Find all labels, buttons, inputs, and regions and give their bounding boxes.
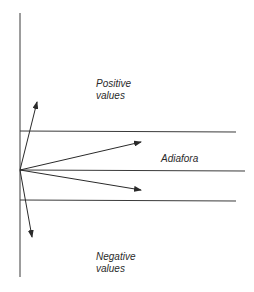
negative-values-label: Negative values [96, 251, 135, 275]
upper-boundary-line [20, 131, 236, 132]
negative-label-line2: values [96, 263, 135, 275]
arrow-positive [20, 102, 37, 170]
diagram-canvas [0, 0, 254, 292]
arrow-adiafora-down [20, 170, 141, 190]
positive-label-line2: values [96, 90, 131, 102]
positive-label-line1: Positive [96, 78, 131, 90]
lower-boundary-line [20, 200, 236, 201]
adiafora-label: Adiafora [161, 153, 198, 165]
arrow-adiafora-up [20, 142, 141, 170]
center-line [20, 170, 245, 171]
arrow-negative [20, 170, 32, 237]
negative-label-line1: Negative [96, 251, 135, 263]
positive-values-label: Positive values [96, 78, 131, 102]
